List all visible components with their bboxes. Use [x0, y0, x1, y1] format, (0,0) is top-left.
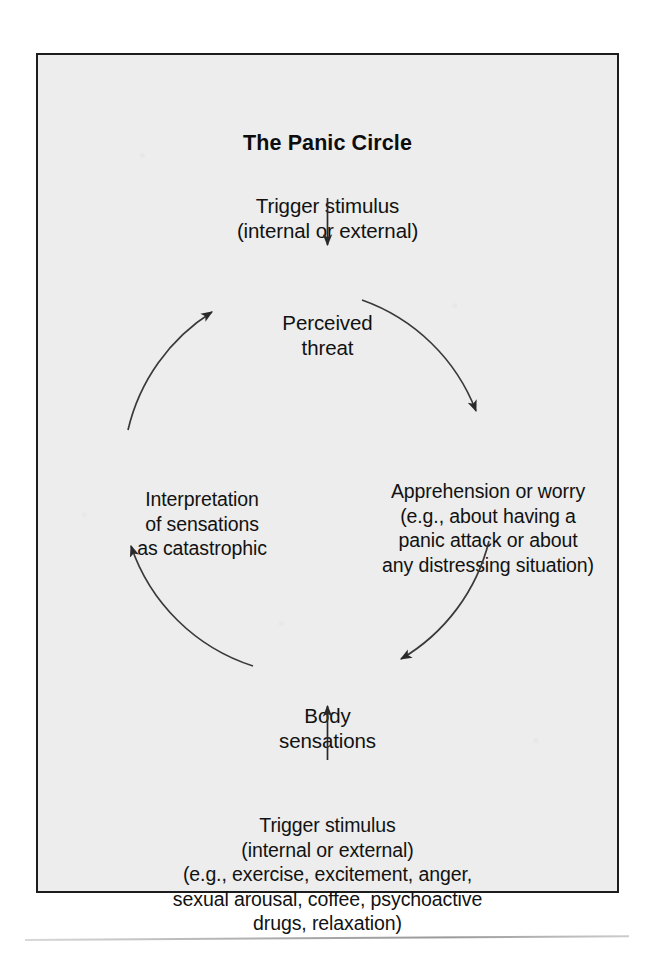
- node-perceived-threat: Perceived threat: [38, 310, 617, 360]
- figure-panel: The Panic Circle Trigger stimulus (inter…: [36, 53, 619, 893]
- page-divider-rule: [25, 935, 629, 941]
- node-trigger-stimulus-top: Trigger stimulus (internal or external): [38, 193, 617, 243]
- node-interpretation-of-sensations: Interpretation of sensations as catastro…: [76, 487, 328, 561]
- node-body-sensations: Body sensations: [38, 703, 617, 753]
- node-trigger-stimulus-bottom: Trigger stimulus (internal or external) …: [38, 813, 617, 936]
- figure-title: The Panic Circle: [38, 131, 617, 156]
- node-apprehension-or-worry: Apprehension or worry (e.g., about havin…: [338, 479, 638, 577]
- scanned-page: The Panic Circle Trigger stimulus (inter…: [0, 0, 655, 963]
